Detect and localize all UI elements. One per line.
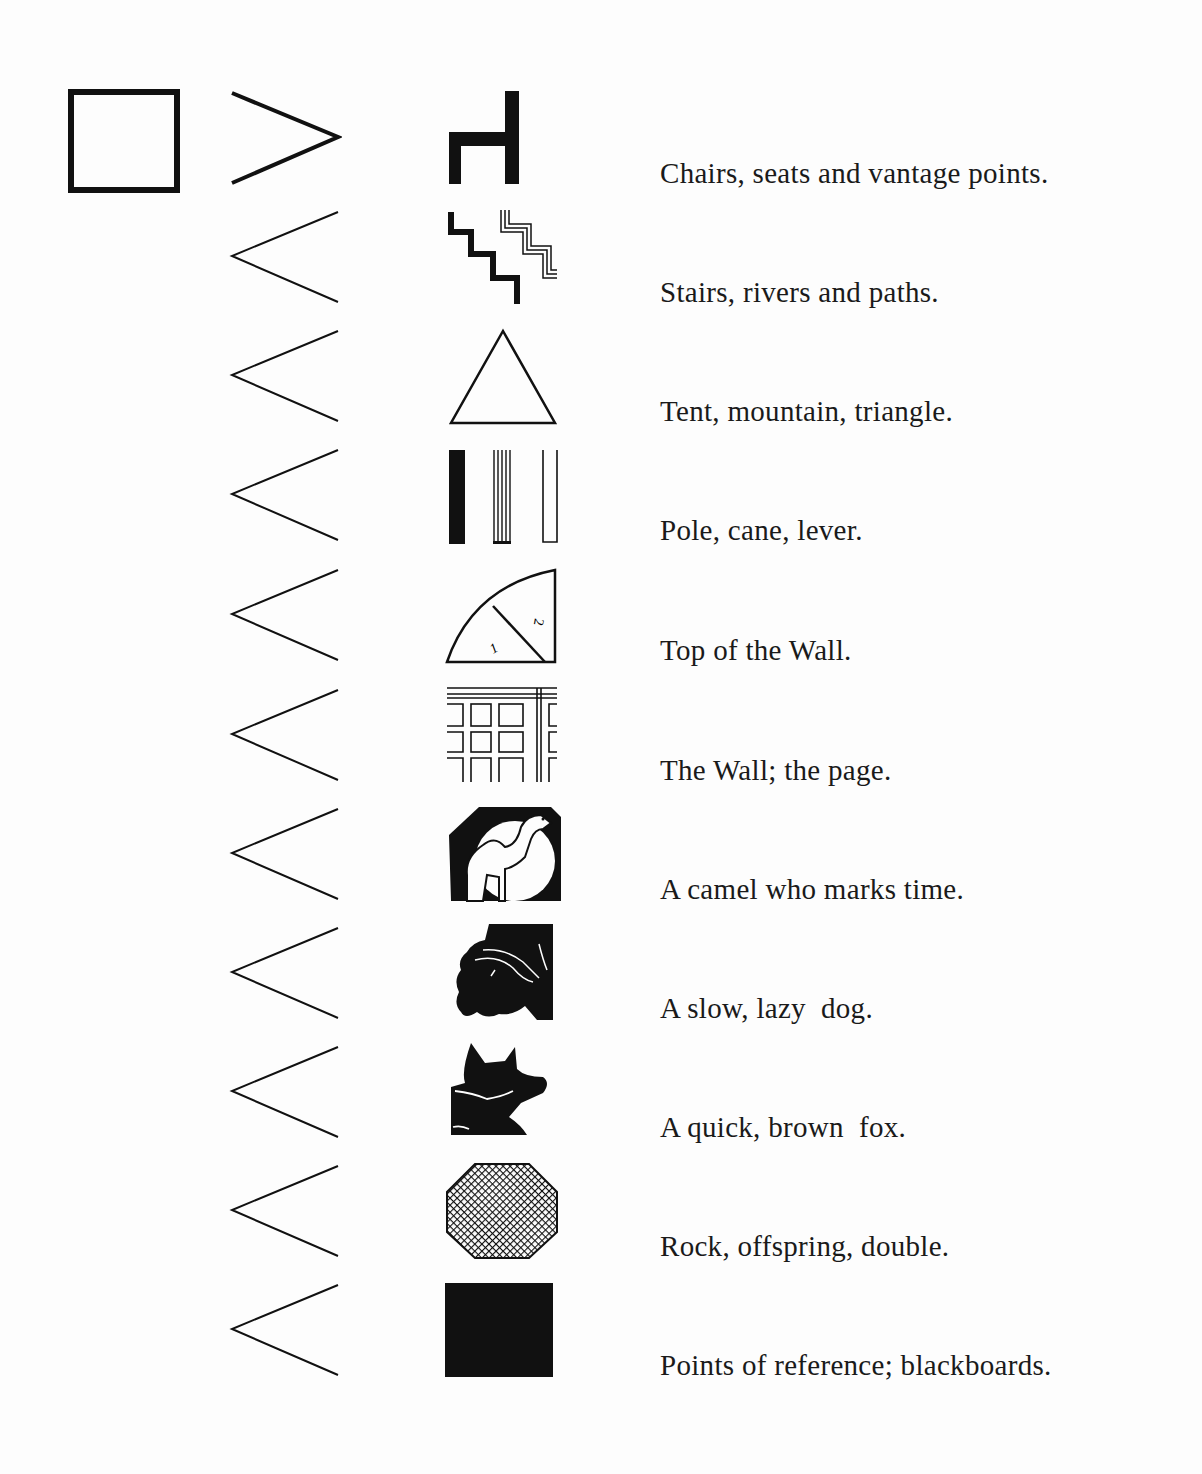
chevron-left-icon (228, 208, 342, 306)
legend-row-chairs: Chairs, seats and vantage points. (0, 89, 1202, 208)
legend-label: Rock, offspring, double. (660, 1230, 949, 1263)
legend-label: Points of reference; blackboards. (660, 1349, 1052, 1382)
chevron-left-icon (228, 805, 342, 903)
legend-label: Pole, cane, lever. (660, 514, 863, 547)
legend-label: Top of the Wall. (660, 634, 852, 667)
legend-row-camel: A camel who marks time. (0, 805, 1202, 924)
dog-icon (443, 924, 561, 1022)
chevron-left-icon (228, 924, 342, 1022)
chevron-left-icon (228, 1281, 342, 1379)
legend-row-rock: Rock, offspring, double. (0, 1162, 1202, 1281)
chevron-left-icon (228, 566, 342, 664)
chevron-left-icon (228, 327, 342, 425)
triangle-icon (443, 327, 561, 425)
legend-label: Chairs, seats and vantage points. (660, 157, 1048, 190)
stairs-icon (443, 208, 561, 306)
legend-row-wall: The Wall; the page. (0, 686, 1202, 805)
legend-row-stairs: Stairs, rivers and paths. (0, 208, 1202, 327)
chevron-left-icon (228, 1043, 342, 1141)
legend-label: A slow, lazy dog. (660, 992, 873, 1025)
legend-row-reference: Points of reference; blackboards. (0, 1281, 1202, 1400)
chevron-left-icon (228, 446, 342, 544)
legend-label: Stairs, rivers and paths. (660, 276, 939, 309)
legend-label: A quick, brown fox. (660, 1111, 906, 1144)
legend-label: Tent, mountain, triangle. (660, 395, 953, 428)
legend-label: The Wall; the page. (660, 754, 892, 787)
svg-text:2: 2 (531, 617, 547, 626)
poles-icon (443, 446, 561, 544)
chair-icon (443, 89, 561, 187)
legend-row-pole: Pole, cane, lever. (0, 446, 1202, 565)
chevron-left-icon (228, 686, 342, 784)
legend-row-dog: A slow, lazy dog. (0, 924, 1202, 1043)
legend-label: A camel who marks time. (660, 873, 964, 906)
legend-row-top-of-wall: 1 2 Top of the Wall. (0, 566, 1202, 685)
fox-icon (443, 1043, 561, 1141)
chevron-left-icon (228, 1162, 342, 1260)
black-square-icon (443, 1281, 561, 1379)
camel-icon (443, 805, 561, 903)
quarter-circle-icon: 1 2 (443, 566, 561, 664)
chevron-right-icon (228, 89, 342, 187)
svg-text:1: 1 (487, 640, 501, 656)
wall-grid-icon (443, 686, 561, 784)
crosshatch-octagon-icon (443, 1162, 561, 1260)
legend-row-tent: Tent, mountain, triangle. (0, 327, 1202, 446)
legend-row-fox: A quick, brown fox. (0, 1043, 1202, 1162)
